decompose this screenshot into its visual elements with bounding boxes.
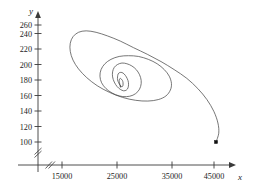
y-axis-tick-labels: 100 120 140 160 180 200 220 240 260 xyxy=(20,21,32,147)
y-tick-label-120: 120 xyxy=(20,123,32,132)
y-tick-label-260: 260 xyxy=(20,21,32,30)
x-axis-arrow-icon xyxy=(229,162,236,168)
data-series-group xyxy=(70,31,219,144)
x-axis-label: x xyxy=(237,172,242,182)
x-tick-label-25000: 25000 xyxy=(107,172,127,181)
x-tick-label-15000: 15000 xyxy=(52,172,72,181)
y-axis-group: 100 120 140 160 180 200 220 240 260 y xyxy=(20,6,42,172)
x-axis-tick-labels: 15000 25000 35000 45000 xyxy=(52,172,224,181)
y-tick-label-180: 180 xyxy=(20,76,32,85)
y-axis-arrow-icon xyxy=(35,11,41,18)
y-tick-label-100: 100 xyxy=(20,138,32,147)
spiral-phase-portrait-figure: 100 120 140 160 180 200 220 240 260 y xyxy=(0,0,258,194)
plot-canvas: 100 120 140 160 180 200 220 240 260 y xyxy=(0,0,258,194)
y-tick-label-140: 140 xyxy=(20,107,32,116)
start-point-marker xyxy=(214,140,217,143)
y-tick-label-200: 200 xyxy=(20,61,32,70)
y-tick-label-160: 160 xyxy=(20,92,32,101)
y-axis-label: y xyxy=(28,6,33,16)
x-tick-label-35000: 35000 xyxy=(162,172,182,181)
x-tick-label-45000: 45000 xyxy=(204,172,224,181)
trajectory-curve xyxy=(70,31,219,142)
y-tick-label-240: 240 xyxy=(20,30,32,39)
y-tick-label-220: 220 xyxy=(20,45,32,54)
x-axis-group: 15000 25000 35000 45000 x xyxy=(18,162,242,183)
